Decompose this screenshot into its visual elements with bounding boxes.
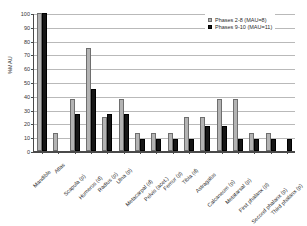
bar-group bbox=[67, 14, 83, 151]
bar bbox=[222, 126, 227, 151]
y-axis-tick-label: 50 bbox=[24, 80, 30, 86]
bar-groups bbox=[34, 14, 295, 151]
bar bbox=[189, 139, 194, 151]
y-axis-tick-label: 60 bbox=[24, 66, 30, 72]
bar-group bbox=[279, 14, 295, 151]
bar bbox=[91, 89, 96, 151]
y-axis-tick-label: 30 bbox=[24, 108, 30, 114]
bar-group bbox=[262, 14, 278, 151]
legend-item: Phases 9-10 (MAU=11) bbox=[208, 24, 272, 30]
bar bbox=[287, 139, 292, 151]
y-axis-tick-label: 80 bbox=[24, 39, 30, 45]
bar-group bbox=[148, 14, 164, 151]
bar bbox=[173, 139, 178, 151]
y-axis-tick-label: 70 bbox=[24, 52, 30, 58]
legend-item: Phases 2-8 (MAU=8) bbox=[208, 17, 272, 23]
bar bbox=[205, 126, 210, 151]
bar-chart: %MAU 1009080706050403020100 MandibleAtla… bbox=[0, 0, 307, 226]
bar bbox=[107, 114, 112, 151]
bar-group bbox=[83, 14, 99, 151]
legend-item-label: Phases 2-8 (MAU=8) bbox=[215, 17, 267, 23]
plot-area: 1009080706050403020100 bbox=[33, 14, 295, 152]
x-axis-labels: MandibleAtlasScapula (p)Humerus (d)Radiu… bbox=[33, 153, 295, 225]
bar-group bbox=[50, 14, 66, 151]
bar bbox=[156, 139, 161, 151]
bar-group bbox=[99, 14, 115, 151]
x-axis-tick-label: Astragalus bbox=[213, 153, 236, 176]
chart-legend: Phases 2-8 (MAU=8) Phases 9-10 (MAU=11) bbox=[205, 14, 275, 33]
y-axis-tick-label: 90 bbox=[24, 25, 30, 31]
bar-group bbox=[34, 14, 50, 151]
bar bbox=[238, 139, 243, 151]
bar bbox=[75, 114, 80, 151]
bar-group bbox=[213, 14, 229, 151]
bar-group bbox=[165, 14, 181, 151]
legend-swatch-black-icon bbox=[208, 25, 212, 29]
bar bbox=[140, 139, 145, 151]
y-axis-tick-label: 100 bbox=[21, 11, 30, 17]
bar-group bbox=[246, 14, 262, 151]
y-axis-tick-label: 0 bbox=[27, 149, 30, 155]
bar-group bbox=[132, 14, 148, 151]
bar-group bbox=[181, 14, 197, 151]
bar bbox=[124, 114, 129, 151]
bar bbox=[254, 139, 259, 151]
bar-group bbox=[197, 14, 213, 151]
legend-item-label: Phases 9-10 (MAU=11) bbox=[215, 24, 272, 30]
y-axis-tick-label: 10 bbox=[24, 135, 30, 141]
y-axis-tick-label: 20 bbox=[24, 121, 30, 127]
bar-group bbox=[116, 14, 132, 151]
bar bbox=[53, 133, 58, 151]
y-axis-title: %MAU bbox=[7, 41, 13, 89]
bar bbox=[271, 139, 276, 151]
y-axis-tick-label: 40 bbox=[24, 94, 30, 100]
bar bbox=[42, 13, 47, 151]
legend-swatch-gray-icon bbox=[208, 18, 212, 22]
bar-group bbox=[230, 14, 246, 151]
